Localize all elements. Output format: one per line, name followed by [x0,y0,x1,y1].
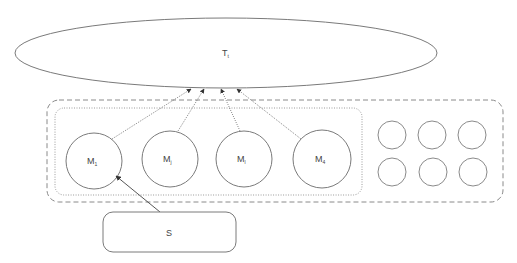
model-node-4: M4 [293,130,351,188]
target-node: Tt [15,18,437,88]
source-label: S [166,228,172,238]
svg-text:Ml: Ml [237,154,246,165]
model-node-2: Mj [142,131,198,187]
model-node-1: M1 [66,133,122,189]
svg-text:M4: M4 [315,154,326,165]
unselected-model-pool [378,121,487,186]
source-node: S [103,212,236,252]
model-node-3: Ml [216,131,272,187]
svg-text:M1: M1 [87,156,98,167]
pool-model-node [459,158,487,186]
model-to-target-arrows [112,89,301,139]
pool-model-node [378,158,406,186]
pool-model-node [419,158,447,186]
diagram-canvas: Tt M1 Mj Ml M4 S [0,0,517,263]
target-label: Tt [222,48,230,59]
outer-pool-container [47,100,503,202]
pool-model-node [418,121,446,149]
arrow-m3-to-target [221,89,240,131]
arrow-m2-to-target [178,89,204,131]
selected-models-container [55,108,362,195]
pool-model-node [378,121,406,149]
svg-text:Mj: Mj [163,154,172,165]
arrow-m1-to-target [112,89,191,139]
pool-model-node [458,121,486,149]
